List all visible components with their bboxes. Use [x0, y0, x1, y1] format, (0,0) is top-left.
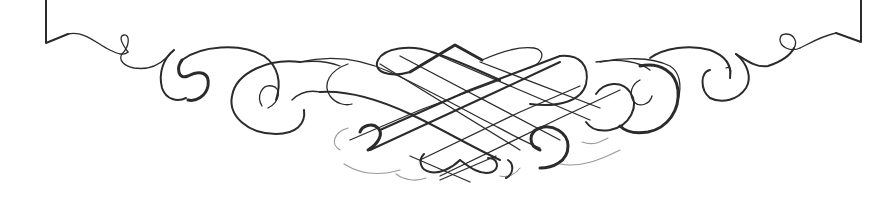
right-oval-loops [586, 47, 730, 133]
right-curl [703, 34, 801, 101]
left-frame-edge [46, 0, 128, 54]
left-small-loop [121, 35, 186, 100]
right-frame-edge [800, 0, 861, 48]
left-six-curl [179, 47, 279, 100]
center-knot [300, 45, 650, 182]
flourish-ornament [0, 0, 896, 207]
left-oval-loops [231, 61, 340, 134]
flourish-svg [0, 0, 896, 207]
